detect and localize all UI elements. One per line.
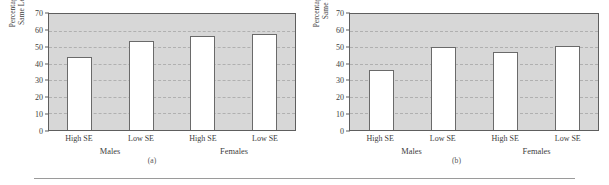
bar[interactable] [555,46,580,131]
footer-divider [34,178,575,179]
y-axis-tick-mark [45,13,49,14]
y-axis-tick-label: 20 [35,93,45,102]
figure-row: Percentage of Other Students with Same L… [0,0,609,172]
x-axis-tick-label: High SE [48,131,110,145]
x-axis-tick-label: Low SE [234,131,296,145]
bar-slot [536,14,598,130]
y-axis-tick-mark [346,63,350,64]
x-axis-tick-label: High SE [172,131,234,145]
y-axis-tick: 60 [336,25,349,34]
y-axis-tick-label: 40 [35,59,45,68]
y-axis-tick-mark [346,29,350,30]
bar[interactable] [369,70,394,130]
y-axis-tick-label: 60 [35,25,45,34]
bar[interactable] [129,41,154,130]
y-axis-tick-mark [45,97,49,98]
bar[interactable] [67,57,92,130]
plot-area-b [349,13,599,131]
y-axis-tick-mark [45,80,49,81]
y-axis-tick-mark [346,114,350,115]
plot-wrap-a: 010203040506070 High SELow SEHigh SELow … [48,13,296,131]
y-axis-tick: 50 [35,42,48,51]
y-axis-tick: 0 [340,127,349,136]
panel-caption-b: (b) [344,156,569,165]
y-axis-tick-mark [346,13,350,14]
y-axis-tick: 50 [336,42,349,51]
y-axis-tick-label: 10 [336,110,346,119]
y-axis-tick-label: 20 [336,93,346,102]
y-axis-tick: 0 [39,127,48,136]
plot-wrap-b: 010203040506070 High SELow SEHigh SELow … [349,13,599,131]
bar-slot [350,14,412,130]
x-axis-labels-b: High SELow SEHigh SELow SE [349,131,599,145]
bar-slot [172,14,234,130]
bar-slot [111,14,173,130]
x-axis-tick-label: Low SE [412,131,475,145]
y-axis-tick: 70 [35,9,48,18]
y-axis-tick: 40 [336,59,349,68]
y-axis-tick-label: 50 [336,42,346,51]
x-axis-tick-label: Low SE [110,131,172,145]
y-axis-tick-label: 10 [35,110,45,119]
panel-caption-a: (a) [40,156,264,165]
y-axis-tick-mark [346,46,350,47]
y-axis-tick: 30 [336,76,349,85]
bar-series-b [350,14,598,130]
x-axis-tick-label: High SE [349,131,412,145]
y-axis-title-a: Percentage of Other Students with Same L… [4,0,30,34]
bar[interactable] [493,52,518,130]
bar[interactable] [252,34,277,130]
y-axis-tick-label: 30 [336,76,346,85]
x-axis-labels-a: High SELow SEHigh SELow SE [48,131,296,145]
y-axis-tick-label: 50 [35,42,45,51]
y-axis-tick-label: 30 [35,76,45,85]
y-axis-tick-label: 40 [336,59,346,68]
y-axis-tick: 20 [35,93,48,102]
y-axis-tick-label: 70 [35,9,45,18]
y-axis-tick: 40 [35,59,48,68]
y-axis-tick-mark [346,97,350,98]
y-axis-tick-label: 60 [336,25,346,34]
y-axis-tick: 30 [35,76,48,85]
y-axis-title-b: Percentage of Other Students with Same L… [308,0,334,34]
y-axis-tick: 10 [35,110,48,119]
bar-series-a [49,14,295,130]
bar-slot [412,14,474,130]
bar[interactable] [190,36,215,130]
y-axis-tick: 20 [336,93,349,102]
y-axis-tick-mark [45,63,49,64]
y-axis-tick: 70 [336,9,349,18]
plot-area-a [48,13,296,131]
bar-slot [49,14,111,130]
y-axis-tick-mark [45,114,49,115]
y-axis-tick: 10 [336,110,349,119]
y-axis-tick-mark [45,29,49,30]
chart-panel-b: Percentage of Other Students with Same L… [304,0,609,172]
bar-slot [474,14,536,130]
y-axis-tick-mark [45,46,49,47]
bar[interactable] [431,47,456,130]
y-axis-tick: 60 [35,25,48,34]
x-axis-tick-label: Low SE [537,131,600,145]
bar-slot [234,14,296,130]
y-axis-tick-label: 70 [336,9,346,18]
chart-panel-a: Percentage of Other Students with Same L… [0,0,304,172]
x-axis-tick-label: High SE [474,131,537,145]
y-axis-tick-mark [346,80,350,81]
